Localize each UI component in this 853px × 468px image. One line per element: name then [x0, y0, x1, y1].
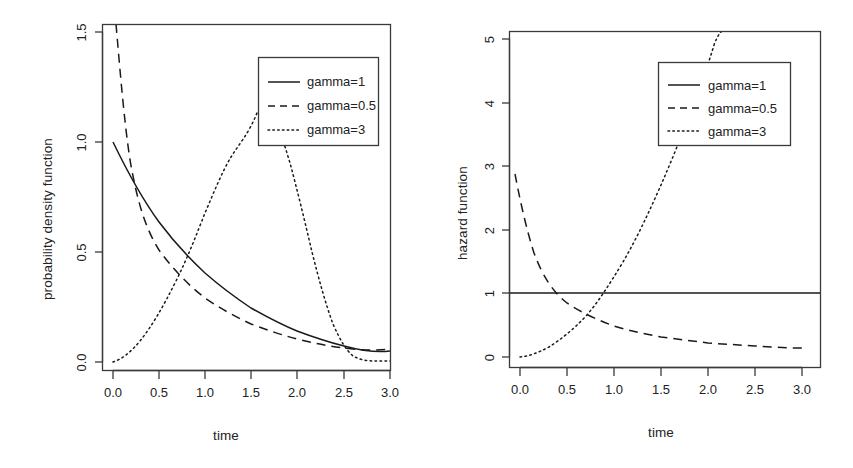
x-tick-label-0: 0.0 — [93, 385, 133, 400]
x-tick-label-4: 2.0 — [688, 382, 728, 397]
x-tick-label-2: 1.0 — [594, 382, 634, 397]
legend-label-gamma-1: gamma=1 — [708, 78, 766, 93]
y-tick-label-2: 1.0 — [74, 125, 89, 161]
x-axis-ticks — [520, 368, 802, 377]
y-axis-title: probability density function — [40, 138, 55, 300]
x-tick-label-3: 1.5 — [641, 382, 681, 397]
legend-label-gamma-3: gamma=3 — [708, 124, 766, 139]
y-tick-label-1: 1 — [482, 281, 497, 307]
panel-hazard: gamma=1 gamma=0.5 gamma=3 0 1 2 3 4 5 0.… — [427, 0, 853, 468]
x-tick-label-6: 3.0 — [782, 382, 822, 397]
legend-label-gamma-3: gamma=3 — [307, 122, 365, 137]
x-axis-title: time — [213, 428, 239, 443]
y-tick-label-3: 3 — [482, 154, 497, 180]
x-axis-ticks — [113, 371, 390, 380]
x-tick-label-0: 0.0 — [500, 382, 540, 397]
y-tick-label-2: 2 — [482, 218, 497, 244]
x-tick-label-4: 2.0 — [277, 385, 317, 400]
legend-label-gamma-0-5: gamma=0.5 — [307, 98, 376, 113]
y-tick-label-0: 0.0 — [74, 345, 89, 381]
x-tick-label-5: 2.5 — [324, 385, 364, 400]
y-axis-ticks — [95, 32, 103, 362]
y-tick-label-1: 0.5 — [74, 235, 89, 271]
panel-pdf: gamma=1 gamma=0.5 gamma=3 0.0 0.5 1.0 1.… — [0, 0, 427, 468]
y-tick-label-3: 1.5 — [74, 15, 89, 51]
y-tick-label-0: 0 — [482, 345, 497, 371]
y-tick-label-4: 4 — [482, 91, 497, 117]
x-tick-label-5: 2.5 — [735, 382, 775, 397]
series-line-gamma-0-5 — [515, 174, 802, 348]
x-tick-label-1: 0.5 — [139, 385, 179, 400]
y-axis-ticks — [502, 39, 510, 357]
x-axis-title: time — [648, 425, 674, 440]
legend-label-gamma-0-5: gamma=0.5 — [708, 101, 777, 116]
x-tick-label-1: 0.5 — [547, 382, 587, 397]
x-tick-label-6: 3.0 — [370, 385, 410, 400]
y-axis-title: hazard function — [455, 166, 470, 260]
legend-label-gamma-1: gamma=1 — [307, 74, 365, 89]
x-tick-label-2: 1.0 — [185, 385, 225, 400]
y-tick-label-5: 5 — [482, 27, 497, 53]
x-tick-label-3: 1.5 — [231, 385, 271, 400]
